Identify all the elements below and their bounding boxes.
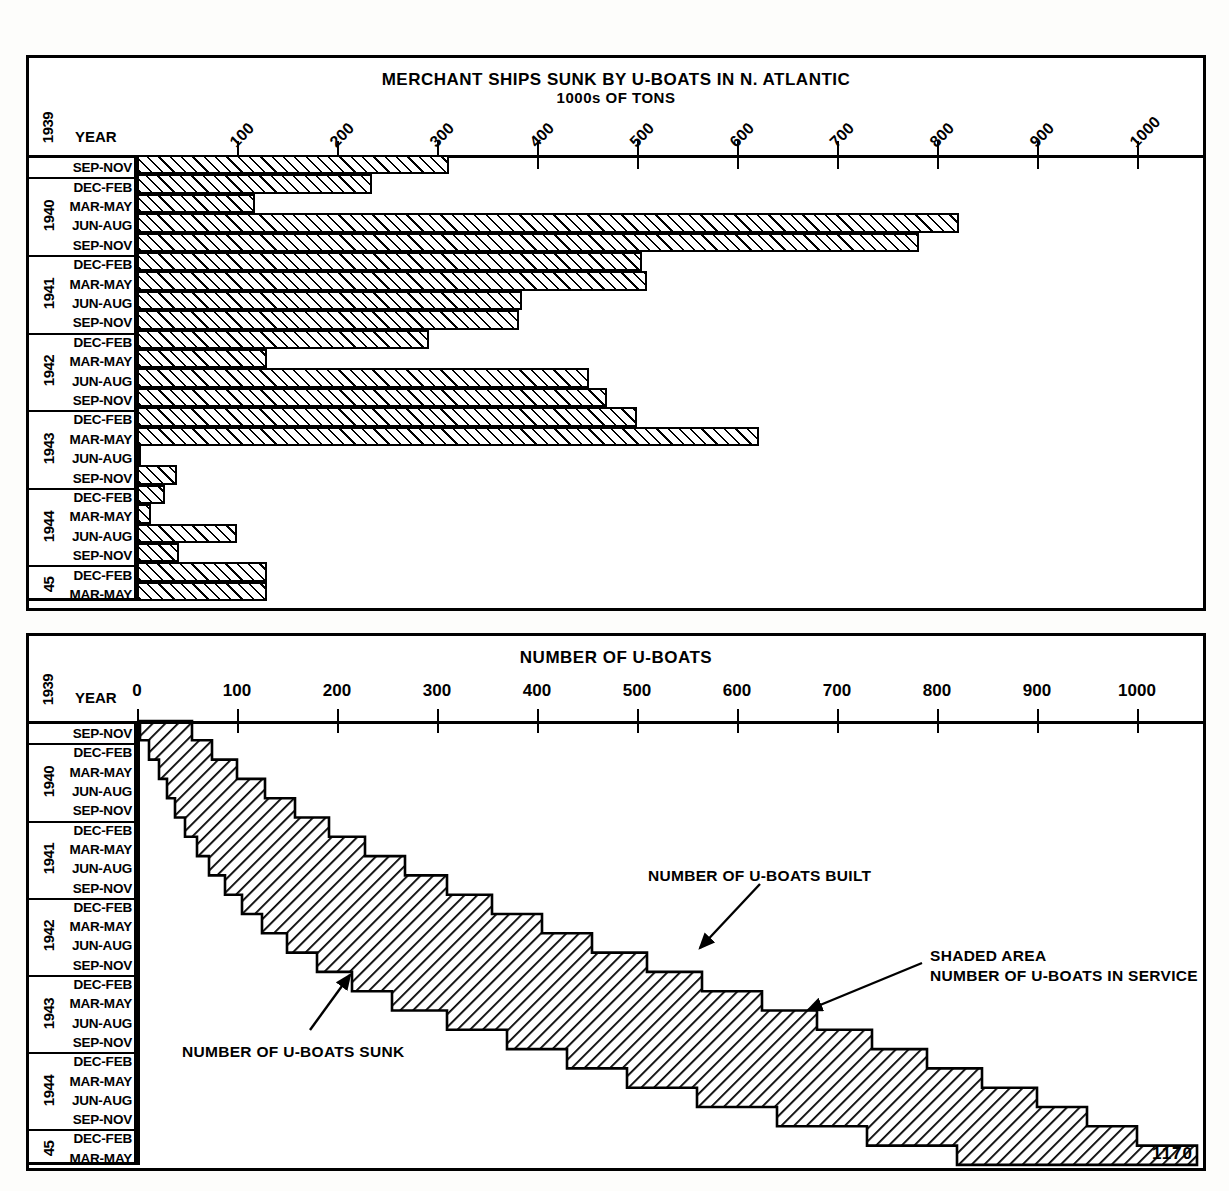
bar-7 [137, 291, 522, 310]
bar-4 [137, 233, 919, 252]
bar-2 [137, 194, 255, 213]
row-label-dec-feb-2: DEC-FEB [29, 821, 137, 840]
row-label-sep-nov-3: SEP-NOV [29, 956, 137, 975]
x-tick-label-600: 600 [726, 119, 758, 151]
row-label-dec-feb-1: DEC-FEB [29, 177, 137, 196]
bar-18 [137, 504, 151, 523]
row-label-dec-feb-4: DEC-FEB [29, 975, 137, 994]
year-group-divider [29, 743, 137, 745]
year-group-label-45: 45 [40, 1131, 57, 1165]
row-label-sep-nov-0: SEP-NOV [29, 158, 137, 177]
bar-19 [137, 524, 237, 543]
row-label-sep-nov-0: SEP-NOV [29, 724, 137, 743]
x-tick-label-700: 700 [826, 119, 858, 151]
bar-6 [137, 271, 647, 290]
x-tick-label-400: 400 [526, 119, 558, 151]
row-label-sep-nov-1: SEP-NOV [29, 801, 137, 820]
bar-15 [137, 446, 141, 465]
row-label-dec-feb-1: DEC-FEB [29, 743, 137, 762]
row-label-sep-nov-2: SEP-NOV [29, 878, 137, 897]
year-group-divider [29, 333, 137, 335]
annotation-label-1: NUMBER OF U-BOATS SUNK [182, 1042, 404, 1061]
x-tick-label-500: 500 [626, 119, 658, 151]
year-group-label-1944: 1944 [40, 509, 57, 543]
year-column-header-bottom: YEAR [75, 689, 117, 706]
bar-16 [137, 465, 177, 484]
bar-21 [137, 562, 267, 581]
annotation-label-0: NUMBER OF U-BOATS BUILT [648, 866, 871, 885]
x-tick-label-100: 100 [226, 119, 258, 151]
year-column-header: YEAR [75, 128, 117, 145]
bar-20 [137, 543, 179, 562]
bar-3 [137, 213, 959, 232]
row-label-sep-nov-2: SEP-NOV [29, 313, 137, 332]
uboat-plot-area: 01002003004005006007008009001000 [137, 636, 1203, 1168]
year-group-divider [29, 488, 137, 490]
year-group-label-1943: 1943 [40, 432, 57, 466]
year-group-label-1941: 1941 [40, 842, 57, 876]
year-quarter-label-column: SEP-NOVDEC-FEBMAR-MAYJUN-AUGSEP-NOV1940D… [29, 155, 137, 601]
uboat-numbers-chart-panel: NUMBER OF U-BOATS YEAR 1939 010020030040… [26, 633, 1206, 1171]
year-group-label-1942: 1942 [40, 354, 57, 388]
bar-13 [137, 407, 637, 426]
x-tick-label-200: 200 [326, 119, 358, 151]
year-group-label-1941: 1941 [40, 276, 57, 310]
row-label-dec-feb-2: DEC-FEB [29, 255, 137, 274]
year-group-divider [29, 821, 137, 823]
row-label-dec-feb-4: DEC-FEB [29, 410, 137, 429]
year-group-divider [29, 1052, 137, 1054]
bar-10 [137, 349, 267, 368]
year-group-label-1943: 1943 [40, 996, 57, 1030]
bar-12 [137, 388, 607, 407]
merchant-ships-chart-panel: MERCHANT SHIPS SUNK BY U-BOATS IN N. ATL… [26, 55, 1206, 611]
x-tick-label-900: 900 [1026, 119, 1058, 151]
merchant-ships-plot-area: 1002003004005006007008009001000 [137, 58, 1203, 608]
bar-11 [137, 368, 589, 387]
year-group-label-1940: 1940 [40, 764, 57, 798]
row-label-sep-nov-5: SEP-NOV [29, 546, 137, 565]
x-tick-label-300: 300 [426, 119, 458, 151]
year-group-divider [29, 255, 137, 257]
annotation-label-2: SHADED AREA [930, 946, 1046, 965]
year-group-label-1944: 1944 [40, 1073, 57, 1107]
row-label-sep-nov-4: SEP-NOV [29, 1033, 137, 1052]
row-label-sep-nov-3: SEP-NOV [29, 391, 137, 410]
row-label-sep-nov-4: SEP-NOV [29, 468, 137, 487]
year-group-label-1942: 1942 [40, 919, 57, 953]
row-label-dec-feb-3: DEC-FEB [29, 333, 137, 352]
row-label-sep-nov-1: SEP-NOV [29, 236, 137, 255]
bar-17 [137, 485, 165, 504]
bar-9 [137, 330, 429, 349]
bar-5 [137, 252, 642, 271]
year-quarter-label-column-bottom: SEP-NOVDEC-FEBMAR-MAYJUN-AUGSEP-NOV1940D… [29, 721, 137, 1165]
row-label-dec-feb-3: DEC-FEB [29, 898, 137, 917]
year-group-label-45: 45 [40, 567, 57, 601]
year-group-divider [29, 975, 137, 977]
x-tick-label-1000: 1000 [1126, 113, 1164, 151]
shaded-service-area [140, 721, 1197, 1165]
year-group-label-1940: 1940 [40, 199, 57, 233]
row-label-sep-nov-5: SEP-NOV [29, 1110, 137, 1129]
bar-22 [137, 582, 267, 601]
bar-14 [137, 427, 759, 446]
axis-start-year-label: 1939 [39, 106, 56, 150]
year-group-divider [29, 410, 137, 412]
uboat-service-band [137, 636, 1203, 1169]
annotation-label-3: NUMBER OF U-BOATS IN SERVICE [930, 966, 1198, 985]
x-tick-label-800: 800 [926, 119, 958, 151]
bar-8 [137, 310, 519, 329]
year-group-divider [29, 177, 137, 179]
figure-number: 1170 [1152, 1144, 1193, 1164]
axis-start-year-label-bottom: 1939 [39, 668, 56, 712]
bar-0 [137, 155, 449, 174]
year-group-divider [29, 898, 137, 900]
row-label-dec-feb-5: DEC-FEB [29, 488, 137, 507]
row-label-dec-feb-5: DEC-FEB [29, 1052, 137, 1071]
bar-1 [137, 174, 372, 193]
